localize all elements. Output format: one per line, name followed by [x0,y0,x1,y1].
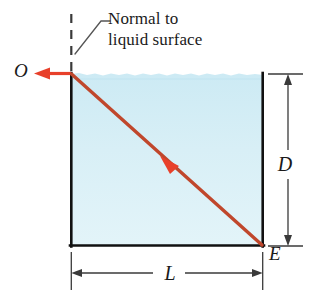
point-label-e: E [269,243,281,265]
normal-callout-line-1: Normal to [108,8,178,29]
depth-arrowhead-top [284,74,292,85]
refracted-ray [34,68,71,80]
leader-polyline [75,21,110,54]
dimension-label-depth: D [275,150,295,179]
depth-arrowhead-bottom [284,235,292,246]
dimension-label-length: L [155,262,185,285]
callout-leader [75,21,110,54]
point-label-o: O [14,60,28,82]
length-arrowhead-right [252,269,263,277]
refracted-ray-arrowhead [34,68,50,80]
refraction-diagram: Normal to liquid surface O E D L [0,0,311,296]
normal-callout-line-2: liquid surface [108,29,202,50]
length-arrowhead-left [71,269,82,277]
